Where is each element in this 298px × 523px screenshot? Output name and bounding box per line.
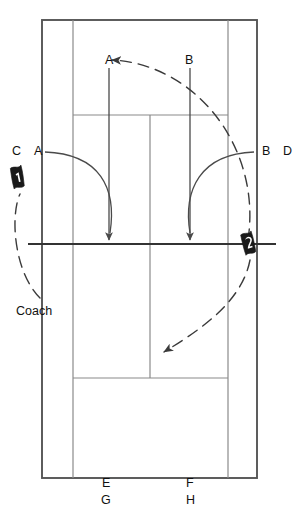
arc-marker2-return [164,260,250,352]
court-diagram: A B C A B D Coach E F G H [0,0,298,523]
label-f-bottom: F [186,477,194,490]
label-h-bottom: H [186,494,195,507]
label-b-top: B [185,54,193,67]
label-g-bottom: G [101,494,111,507]
player-markers [9,165,257,255]
label-e-bottom: E [102,477,110,490]
label-d-right: D [283,145,292,158]
arc-b-serve [189,152,254,233]
label-c-left: C [12,145,21,158]
arc-a-serve [45,152,111,233]
label-coach: Coach [16,305,52,318]
label-b-right: B [262,145,270,158]
court-lines [28,20,276,478]
court-svg [0,0,298,523]
arc-ball-over-net [112,60,250,240]
arc-coach-to-marker1 [15,194,40,298]
label-a-left: A [34,145,42,158]
label-a-top: A [105,54,113,67]
player-marker-1[interactable] [9,165,25,189]
